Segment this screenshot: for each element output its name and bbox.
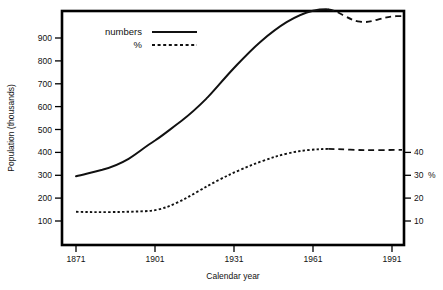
y-tick-label: 900	[38, 33, 52, 43]
chart-figure: 100 200 300 400 500 600 700 800 900 10 2…	[0, 0, 443, 290]
y-tick-label: 800	[38, 56, 52, 66]
y-axis-right-title: %	[428, 170, 436, 180]
legend-label-numbers: numbers	[105, 26, 142, 37]
x-axis-title: Calendar year	[206, 271, 260, 281]
y-tick-label: 600	[38, 102, 52, 112]
y2-tick-label: 30	[414, 170, 424, 180]
x-tick-label: 1961	[304, 254, 323, 264]
y2-tick-label: 20	[414, 193, 424, 203]
x-tick-label: 1991	[383, 254, 402, 264]
y-tick-label: 100	[38, 216, 52, 226]
y-tick-label: 300	[38, 170, 52, 180]
y2-tick-label: 40	[414, 147, 424, 157]
legend-label-percent: %	[134, 39, 143, 50]
y2-tick-label: 10	[414, 216, 424, 226]
y-axis-left-title: Population (thousands)	[6, 84, 16, 172]
x-tick-label: 1871	[67, 254, 86, 264]
x-tick-label: 1901	[146, 254, 165, 264]
population-line-chart: 100 200 300 400 500 600 700 800 900 10 2…	[0, 0, 443, 290]
chart-background	[0, 0, 443, 290]
x-tick-label: 1931	[225, 254, 244, 264]
y-tick-label: 500	[38, 125, 52, 135]
y-tick-label: 400	[38, 147, 52, 157]
y-tick-label: 700	[38, 79, 52, 89]
y-tick-label: 200	[38, 193, 52, 203]
y-axis-left-tick-labels: 100 200 300 400 500 600 700 800 900	[38, 33, 52, 226]
